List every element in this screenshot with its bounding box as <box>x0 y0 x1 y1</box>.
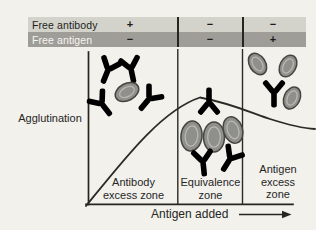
antibody-icon <box>116 53 146 86</box>
antigen-icon <box>179 120 203 152</box>
antibody-icon <box>84 86 120 123</box>
antibody-icon <box>91 53 124 88</box>
antigen-icon <box>276 52 301 80</box>
agglutination-diagram: Free antibody + − − Free antigen − − + A… <box>0 0 316 230</box>
antigen-icon <box>280 84 304 112</box>
right-arrow-icon <box>239 211 292 218</box>
antibody-icon <box>262 79 286 107</box>
antigen-icon <box>204 122 225 152</box>
antigen-icon <box>245 50 271 78</box>
plot-svg <box>0 0 316 230</box>
antigen-icon <box>112 79 142 106</box>
antibody-icon <box>190 147 217 178</box>
